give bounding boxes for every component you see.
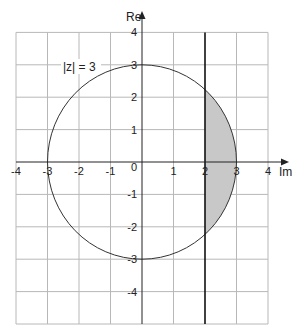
svg-text:3: 3	[233, 165, 239, 177]
svg-text:-4: -4	[127, 286, 137, 298]
svg-text:-3: -3	[43, 165, 53, 177]
svg-text:3: 3	[131, 59, 137, 71]
svg-text:4: 4	[265, 165, 271, 177]
svg-text:1: 1	[131, 124, 137, 136]
svg-text:-3: -3	[127, 253, 137, 265]
vertical-axis-label: Re	[126, 10, 142, 24]
svg-text:-4: -4	[11, 165, 21, 177]
svg-text:-2: -2	[127, 221, 137, 233]
svg-text:2: 2	[202, 165, 208, 177]
complex-plane-figure: Re Im -4 -3 -2 -1 1 2 3 4 0 4 3 2 1 -1 -…	[0, 0, 302, 330]
svg-text:-1: -1	[106, 165, 116, 177]
axes	[16, 16, 284, 324]
svg-text:-1: -1	[127, 188, 137, 200]
horizontal-axis-label: Im	[279, 165, 292, 179]
svg-text:1: 1	[170, 165, 176, 177]
origin-label: 0	[131, 161, 137, 173]
svg-text:4: 4	[131, 26, 137, 38]
svg-text:-2: -2	[74, 165, 84, 177]
circle-label: |z| = 3	[63, 60, 96, 74]
svg-text:2: 2	[131, 91, 137, 103]
complex-plane-svg: Re Im -4 -3 -2 -1 1 2 3 4 0 4 3 2 1 -1 -…	[0, 0, 302, 330]
